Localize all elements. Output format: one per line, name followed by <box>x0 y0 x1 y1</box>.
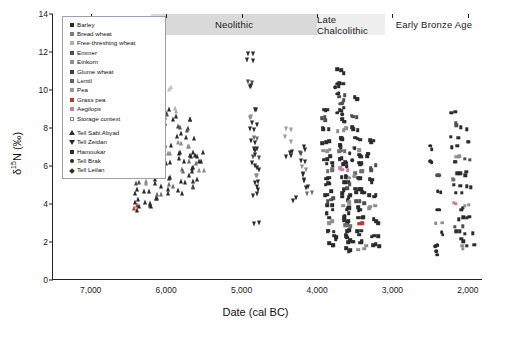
data-point <box>358 148 362 152</box>
data-point <box>368 138 372 142</box>
marker-glyph <box>70 60 74 64</box>
data-point <box>191 184 195 189</box>
data-point <box>166 186 170 191</box>
legend-marker-icon <box>67 51 77 55</box>
data-point <box>339 136 343 140</box>
data-point <box>137 180 141 185</box>
data-point <box>284 126 288 131</box>
data-point <box>465 170 468 173</box>
data-point <box>253 108 257 113</box>
x-tick-mark <box>392 14 393 18</box>
data-point <box>435 243 439 247</box>
legend-item-label: Tell Sabi Abyad <box>77 130 119 136</box>
data-point <box>251 59 255 64</box>
data-point <box>463 174 466 177</box>
data-point <box>330 168 334 172</box>
data-point <box>180 191 184 196</box>
y-tick-mark <box>49 90 53 91</box>
data-point <box>147 188 151 193</box>
data-point <box>154 195 158 200</box>
data-point <box>359 154 363 158</box>
data-point <box>330 204 334 208</box>
x-tick-mark <box>468 14 469 18</box>
y-tick-mark <box>49 280 53 281</box>
data-point <box>353 147 357 151</box>
data-point <box>183 180 187 185</box>
data-point <box>153 181 157 186</box>
legend-item-pea: Pea <box>67 86 161 95</box>
data-point <box>255 191 259 196</box>
data-point <box>456 144 459 147</box>
data-point <box>356 128 360 132</box>
y-tick-mark <box>49 242 53 243</box>
data-point <box>440 230 444 234</box>
legend-item-label: Tell Leilan <box>77 167 105 173</box>
legend-item-glume-wheat: Glume wheat <box>67 67 161 76</box>
data-point <box>435 253 439 257</box>
data-point <box>439 190 443 194</box>
marker-glyph <box>69 168 75 174</box>
data-point <box>347 228 351 232</box>
data-point <box>463 232 466 235</box>
legend-item-label: Emmer <box>77 50 97 56</box>
data-point <box>167 86 171 91</box>
data-point <box>301 172 305 177</box>
data-point <box>335 82 339 86</box>
data-point <box>337 149 341 153</box>
data-point <box>352 174 356 178</box>
legend-item-emmer: Emmer <box>67 48 161 57</box>
data-point <box>332 230 336 234</box>
data-point <box>457 218 460 221</box>
data-point <box>345 161 349 165</box>
data-point <box>337 92 341 96</box>
x-tick-label: 3,000 <box>382 279 403 295</box>
data-point <box>465 244 468 247</box>
marker-glyph <box>70 117 74 121</box>
data-point <box>372 234 376 238</box>
data-point <box>186 125 190 130</box>
data-point <box>437 173 441 177</box>
legend-marker-icon <box>67 70 77 74</box>
legend-marker-icon <box>67 117 77 121</box>
x-tick-label: 6,000 <box>156 279 177 295</box>
period-band-label: Neolithic <box>215 19 253 30</box>
data-point <box>347 211 351 215</box>
x-tick-label: 2,000 <box>457 279 478 295</box>
legend-item-tell-zeidan: Tell Zeidan <box>67 138 161 147</box>
x-tick-mark <box>166 14 167 18</box>
data-point <box>357 248 361 252</box>
data-point <box>459 237 462 240</box>
data-point <box>356 97 360 101</box>
marker-glyph <box>70 41 74 45</box>
legend-item-free-threshing-wheat: Free-threshing wheat <box>67 39 161 48</box>
chart-legend: BarleyBread wheatFree-threshing wheatEmm… <box>62 16 166 179</box>
data-point <box>374 193 378 197</box>
marker-glyph <box>70 32 74 36</box>
data-point <box>201 150 205 155</box>
y-axis-label-unit: N (‰) <box>11 132 23 161</box>
data-point <box>179 141 183 146</box>
data-point <box>184 134 188 139</box>
data-point <box>372 217 376 221</box>
data-point <box>284 155 288 160</box>
data-point <box>341 112 345 116</box>
data-point <box>167 175 171 180</box>
marker-glyph <box>69 130 75 135</box>
data-point <box>339 68 343 72</box>
data-point <box>468 158 471 161</box>
legend-item-label: Storage context <box>77 116 120 122</box>
x-tick-mark <box>242 14 243 18</box>
data-point <box>370 178 374 182</box>
data-point <box>148 202 152 207</box>
data-point <box>188 116 192 121</box>
data-point <box>327 221 331 225</box>
data-point <box>248 115 252 120</box>
data-point <box>159 183 163 188</box>
x-tick-mark <box>317 14 318 18</box>
data-point <box>372 244 376 248</box>
data-point <box>345 246 349 250</box>
data-point <box>458 155 461 158</box>
data-point <box>195 177 199 182</box>
data-point <box>362 202 366 206</box>
data-point <box>289 154 293 159</box>
